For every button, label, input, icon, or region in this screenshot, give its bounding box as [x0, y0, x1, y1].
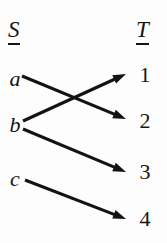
arrow-a-2-head-icon [112, 110, 126, 119]
set-label-domain: S [8, 18, 20, 45]
set-label-domain-text: S [8, 18, 20, 45]
arrow-b-3-shaft [23, 129, 115, 168]
arrow-b-3 [23, 129, 126, 172]
codomain-element-4: 4 [136, 208, 154, 230]
codomain-element-3: 3 [136, 161, 154, 183]
arrow-a-2 [22, 76, 126, 119]
domain-element-c: c [6, 168, 24, 190]
arrow-b-1-head-icon [112, 74, 126, 84]
set-label-codomain: T [136, 18, 149, 45]
set-label-codomain-text: T [136, 18, 149, 45]
arrow-b-3-head-icon [112, 163, 126, 172]
codomain-element-2: 2 [136, 110, 154, 132]
domain-element-b: b [6, 114, 24, 136]
mapping-diagram-canvas: S T a b c 1 2 3 4 [0, 0, 167, 243]
arrow-b-1 [23, 74, 126, 121]
arrow-b-1-shaft [23, 79, 116, 121]
arrow-c-4 [25, 180, 126, 219]
codomain-element-1: 1 [136, 64, 154, 86]
domain-element-a: a [6, 68, 24, 90]
arrow-c-4-head-icon [112, 210, 126, 219]
arrow-c-4-shaft [25, 180, 115, 215]
arrow-a-2-shaft [22, 76, 115, 115]
